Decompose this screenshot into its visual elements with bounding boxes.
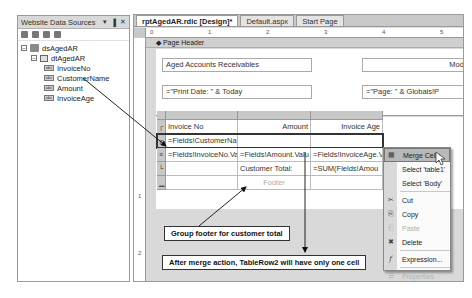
menu-item-label: Cut bbox=[397, 197, 413, 204]
ruler-label: 2 bbox=[266, 29, 269, 35]
collapse-icon[interactable]: − bbox=[31, 55, 37, 61]
ruler-label: 0 bbox=[150, 29, 153, 35]
table-cell[interactable]: Customer Total: bbox=[238, 162, 311, 176]
merge-note-callout: After merge action, TableRow2 will have … bbox=[162, 255, 366, 270]
table-cell[interactable]: =Fields!CustomerNa bbox=[166, 134, 238, 148]
print-date-textbox[interactable]: ="Print Date: " & Today bbox=[162, 85, 312, 99]
table-cell[interactable]: =SUM(Fields!Amou bbox=[311, 162, 383, 176]
panel-title: Website Data Sources bbox=[21, 18, 99, 27]
group-header-row-selected[interactable]: ╓ =Fields!CustomerNa bbox=[157, 134, 383, 148]
paste-icon: ⎗ bbox=[384, 224, 397, 232]
column-handle[interactable] bbox=[238, 111, 311, 120]
menu-item-label: Select 'table1' bbox=[397, 166, 445, 173]
page-header-section[interactable]: Aged Accounts Receivables Mode ="Print D… bbox=[156, 49, 463, 116]
page-header-label: Page Header bbox=[163, 39, 204, 46]
vertical-ruler: 1 2 bbox=[134, 38, 146, 281]
table-cell[interactable] bbox=[311, 176, 383, 190]
page-header-icon: ◆ bbox=[156, 39, 163, 46]
menu-item-select-body[interactable]: Select 'Body' bbox=[384, 176, 450, 190]
datatable-icon bbox=[40, 55, 48, 62]
collapse-icon[interactable]: − bbox=[21, 45, 27, 51]
column-handle[interactable] bbox=[311, 111, 383, 120]
horizontal-ruler-row: 0 1 2 3 4 5 bbox=[134, 28, 463, 38]
table-cell[interactable]: =Fields!Amount.Valu bbox=[238, 148, 311, 162]
table-corner-handle[interactable] bbox=[157, 111, 166, 120]
window-position-dropdown-icon[interactable]: ▾ bbox=[103, 18, 107, 26]
table-cell[interactable]: =Fields!InvoiceNo.Va bbox=[166, 148, 238, 162]
menu-item-cut[interactable]: ✂ Cut bbox=[384, 193, 450, 207]
panel-title-bar: Website Data Sources ▾ ▐ ✕ bbox=[18, 16, 129, 29]
ruler-label: 2 bbox=[138, 250, 141, 256]
ruler-label: 1 bbox=[208, 29, 211, 35]
field-icon: abc bbox=[44, 85, 54, 91]
table-header-icon[interactable]: ┌ bbox=[157, 120, 166, 134]
tree-node-dataset[interactable]: − dsAgedAR bbox=[18, 43, 129, 53]
table-cell[interactable]: Invoice Age bbox=[311, 120, 383, 134]
tab-rptagedar-design[interactable]: rptAgedAR.rdlc [Design]* bbox=[136, 15, 238, 26]
table-header-row[interactable]: ┌ Invoice No Amount Invoice Age bbox=[157, 120, 383, 134]
field-label: CustomerName bbox=[57, 74, 110, 83]
table-cell[interactable] bbox=[238, 134, 311, 148]
page-number-textbox[interactable]: ="Page: " & Globals!P bbox=[362, 85, 464, 99]
cut-icon: ✂ bbox=[384, 196, 397, 204]
menu-item-label: Properties bbox=[397, 273, 434, 280]
column-handle[interactable] bbox=[166, 111, 238, 120]
page-header-bar[interactable]: ◆ Page Header bbox=[146, 38, 463, 48]
tree-node-label: dtAgedAR bbox=[51, 54, 85, 63]
tab-default-aspx[interactable]: Default.aspx bbox=[240, 15, 294, 26]
merge-cells-icon: ▦ bbox=[385, 151, 398, 159]
auto-hide-pin-icon[interactable]: ▐ bbox=[111, 19, 116, 26]
field-label: InvoiceAge bbox=[57, 94, 94, 103]
table-footer-icon[interactable]: ▁ bbox=[157, 176, 166, 190]
tree-field-amount[interactable]: abc Amount bbox=[18, 83, 129, 93]
table-cell[interactable]: Amount bbox=[238, 120, 311, 134]
detail-row[interactable]: ≡ =Fields!InvoiceNo.Va =Fields!Amount.Va… bbox=[157, 148, 383, 162]
tree-node-label: dsAgedAR bbox=[42, 44, 78, 53]
report-title-textbox[interactable]: Aged Accounts Receivables bbox=[162, 58, 312, 72]
tree-field-invoiceno[interactable]: abc InvoiceNo bbox=[18, 63, 129, 73]
context-menu: ▦ Merge Cells Select 'table1' Select 'Bo… bbox=[383, 147, 451, 271]
ruler-ticks bbox=[146, 28, 463, 37]
group-header-icon[interactable]: ╓ bbox=[157, 134, 166, 148]
menu-separator bbox=[400, 250, 450, 251]
properties-icon: ☰ bbox=[384, 272, 397, 280]
field-icon: abc bbox=[44, 65, 54, 71]
close-icon[interactable]: ✕ bbox=[120, 18, 126, 26]
menu-item-copy[interactable]: ⎘ Copy bbox=[384, 207, 450, 221]
ruler-label: 4 bbox=[382, 29, 385, 35]
table-cell[interactable]: Invoice No bbox=[166, 120, 238, 134]
menu-item-properties[interactable]: ☰ Properties bbox=[384, 269, 450, 283]
refresh-icon[interactable] bbox=[32, 31, 39, 38]
menu-separator bbox=[400, 267, 450, 268]
edit-icon[interactable] bbox=[43, 31, 50, 38]
ruler-label: 5 bbox=[440, 29, 443, 35]
dataset-icon bbox=[30, 44, 39, 52]
table-cell[interactable] bbox=[166, 176, 238, 190]
menu-item-merge-cells[interactable]: ▦ Merge Cells bbox=[384, 148, 450, 162]
menu-item-label: Expression... bbox=[397, 256, 442, 263]
delete-icon: ✖ bbox=[384, 238, 397, 246]
tree-field-customername[interactable]: abc CustomerName bbox=[18, 73, 129, 83]
copy-icon: ⎘ bbox=[384, 210, 397, 218]
group-footer-callout: Group footer for customer total bbox=[164, 226, 290, 241]
menu-item-expression[interactable]: f Expression... bbox=[384, 252, 450, 266]
table-footer-row[interactable]: ▁ Footer bbox=[157, 176, 383, 190]
header-right-textbox[interactable]: Mode bbox=[362, 58, 464, 72]
menu-item-select-table1[interactable]: Select 'table1' bbox=[384, 162, 450, 176]
configure-icon[interactable] bbox=[54, 31, 61, 38]
table-cell[interactable]: =Fields!InvoiceAge.V bbox=[311, 148, 383, 162]
table-cell[interactable] bbox=[311, 134, 383, 148]
tree-field-invoiceage[interactable]: abc InvoiceAge bbox=[18, 93, 129, 103]
group-footer-row[interactable]: └ Customer Total: =SUM(Fields!Amou bbox=[157, 162, 383, 176]
tree-node-table[interactable]: − dtAgedAR bbox=[18, 53, 129, 63]
table-cell[interactable] bbox=[166, 162, 238, 176]
website-data-sources-panel: Website Data Sources ▾ ▐ ✕ − dsAgedAR − … bbox=[17, 15, 130, 282]
menu-item-paste[interactable]: ⎗ Paste bbox=[384, 221, 450, 235]
group-footer-icon[interactable]: └ bbox=[157, 162, 166, 176]
detail-row-icon[interactable]: ≡ bbox=[157, 148, 166, 162]
table-cell[interactable]: Footer bbox=[238, 176, 311, 190]
add-datasource-icon[interactable] bbox=[21, 31, 28, 38]
menu-item-delete[interactable]: ✖ Delete bbox=[384, 235, 450, 249]
menu-item-label: Delete bbox=[397, 239, 422, 246]
tab-start-page[interactable]: Start Page bbox=[296, 15, 343, 26]
